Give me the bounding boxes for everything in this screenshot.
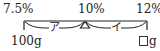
arm-label-left: ア	[49, 22, 60, 34]
fulcrum-triangle-icon	[81, 22, 90, 29]
label-right-weight: g	[139, 35, 157, 47]
brace-right-b	[121, 22, 146, 28]
brace-right-a	[86, 22, 111, 28]
brace-left-a	[25, 22, 49, 28]
blank-box	[139, 36, 148, 46]
brace-left-b	[59, 22, 84, 28]
arm-label-right: イ	[111, 22, 122, 34]
label-right-unit: g	[149, 34, 157, 48]
label-left-weight: 100g	[11, 35, 42, 47]
